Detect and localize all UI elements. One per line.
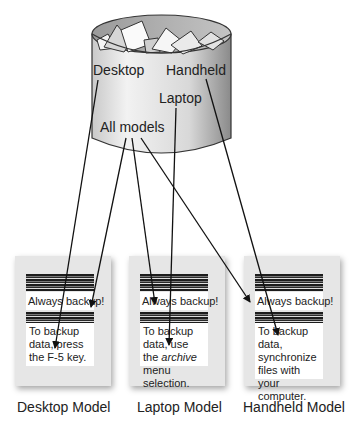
caption-desktop-model: Desktop Model <box>17 399 110 415</box>
specific-text: To backup data, synchronize files with y… <box>255 323 323 379</box>
desktop-model-card: Always backup! To backup data, press the… <box>15 256 111 386</box>
label-desktop: Desktop <box>93 62 144 78</box>
caption-laptop-model: Laptop Model <box>137 399 222 415</box>
label-handheld: Handheld <box>166 62 226 78</box>
common-text: Always backup! <box>26 292 94 310</box>
scribbled-text <box>140 312 208 323</box>
scribbled-text <box>255 274 323 291</box>
specific-text: To backup data, use the archive menu sel… <box>140 323 208 366</box>
label-all-models: All models <box>100 119 165 135</box>
content-repository-cylinder <box>0 0 360 170</box>
label-laptop: Laptop <box>159 90 202 106</box>
caption-handheld-model: Handheld Model <box>243 399 345 415</box>
common-text: Always backup! <box>140 292 208 310</box>
handheld-model-card: Always backup! To backup data, synchroni… <box>244 256 340 386</box>
specific-text: To backup data, press the F-5 key. <box>26 323 94 366</box>
specific-text-emphasis: archive <box>161 351 196 363</box>
scribbled-text <box>255 312 323 323</box>
specific-text-post: menu selection. <box>143 364 189 389</box>
scribbled-text <box>140 274 208 291</box>
laptop-model-card: Always backup! To backup data, use the a… <box>129 256 225 386</box>
common-text: Always backup! <box>255 292 323 310</box>
scribbled-text <box>26 312 94 323</box>
scribbled-text <box>26 274 94 291</box>
